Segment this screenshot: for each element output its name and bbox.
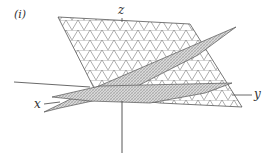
z-axis-label: z — [118, 4, 124, 16]
y-axis-label: y — [254, 88, 261, 100]
x-axis-label: x — [34, 98, 41, 110]
axis-line-back — [14, 82, 90, 87]
three-planes-diagram — [0, 0, 272, 161]
x-axis-line — [44, 102, 60, 104]
